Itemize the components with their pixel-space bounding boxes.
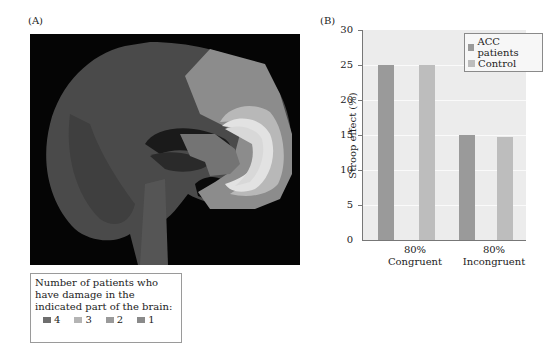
- y-tick-label: 5: [333, 200, 353, 210]
- y-tick: [358, 205, 363, 206]
- bar-control-congruent: [419, 65, 435, 240]
- swatch-icon: [468, 60, 475, 67]
- y-tick-label: 25: [333, 60, 353, 70]
- y-tick-label: 15: [333, 130, 353, 140]
- x-category-incongruent: 80% Incongruent: [454, 244, 534, 268]
- y-tick: [358, 170, 363, 171]
- y-tick-label: 10: [333, 165, 353, 175]
- swatch-icon: [43, 317, 51, 323]
- legend-item-2: 2: [106, 314, 123, 326]
- swatch-icon: [106, 317, 114, 323]
- swatch-icon: [468, 44, 474, 51]
- legend-title: Number of patients who have damage in th…: [35, 277, 177, 313]
- y-tick-label: 30: [333, 25, 353, 35]
- brain-lesion-image: [30, 34, 300, 265]
- swatch-icon: [74, 317, 82, 323]
- bar-control-incongruent: [497, 137, 513, 240]
- panel-a-label: (A): [28, 15, 43, 26]
- legend-item-acc: ACC patients: [468, 36, 539, 58]
- legend-item-4: 4: [43, 314, 60, 326]
- series-legend: ACC patients Control: [464, 33, 543, 72]
- y-tick-label: 20: [333, 95, 353, 105]
- y-tick-label: 0: [333, 235, 353, 245]
- legend-swatches: 4 3 2 1: [35, 314, 177, 326]
- damage-count-legend: Number of patients who have damage in th…: [30, 273, 182, 343]
- y-tick: [358, 30, 363, 31]
- y-tick: [358, 135, 363, 136]
- bar-acc-congruent: [378, 65, 394, 240]
- legend-item-3: 3: [74, 314, 91, 326]
- legend-item-1: 1: [137, 314, 154, 326]
- bar-acc-incongruent: [459, 135, 475, 240]
- stroop-bar-chart: (B) Stroop effect (%) 30 25 20 15 10 5 0…: [320, 0, 543, 280]
- y-tick: [358, 100, 363, 101]
- y-tick: [358, 65, 363, 66]
- x-category-congruent: 80% Congruent: [375, 244, 455, 268]
- swatch-icon: [137, 317, 145, 323]
- legend-item-control: Control: [468, 58, 539, 69]
